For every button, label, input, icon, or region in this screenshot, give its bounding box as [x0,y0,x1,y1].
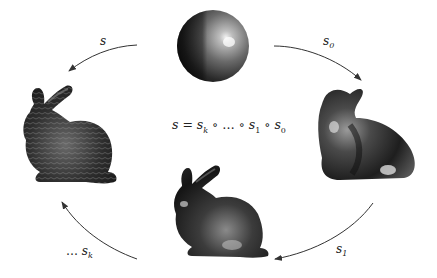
arrow-label-sk: … sk [66,244,93,260]
smooth-bunny-object [318,89,415,180]
sphere-object [177,10,249,82]
arrow-label-s: s [100,34,106,48]
arrow-label-s1: s1 [336,242,347,258]
composition-formula: s = sk ∘ … ∘ s1 ∘ s0 [172,117,286,135]
arrow-s [69,45,137,71]
arrow-s1 [275,203,373,259]
diagram-canvas: s s0 s1 … sk s = sk ∘ … ∘ s1 ∘ s0 [0,0,437,278]
medium-bunny-object [174,166,269,258]
diagram-graphics [0,0,437,278]
detailed-bunny-object [23,86,116,184]
arrow-label-s0: s0 [323,34,334,50]
arrow-s0 [274,46,361,80]
